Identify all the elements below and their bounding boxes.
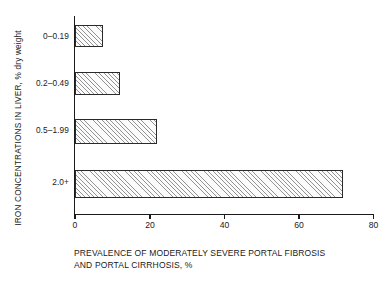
y-axis-tick-label: 0.2–0.49 xyxy=(36,79,69,87)
y-axis-tick-label: 0.5–1.99 xyxy=(36,126,69,134)
x-axis-tick-label: 40 xyxy=(220,221,230,230)
bar-3 xyxy=(75,170,343,198)
y-axis-tick-label: 0–0.19 xyxy=(43,32,69,40)
y-axis-title: IRON CONCENTRATIONS IN LIVER, % dry weig… xyxy=(10,12,26,244)
x-axis-title-line2: AND PORTAL CIRRHOSIS, % xyxy=(74,260,384,272)
x-axis-title-line1: PREVALENCE OF MODERATELY SEVERE PORTAL F… xyxy=(74,248,384,260)
x-axis-tick-label: 0 xyxy=(73,221,78,230)
x-axis-tick xyxy=(224,215,225,219)
y-axis-title-text: IRON CONCENTRATIONS IN LIVER, % dry weig… xyxy=(14,30,22,226)
x-axis-tick-label: 80 xyxy=(369,221,379,230)
bar-1 xyxy=(75,72,120,95)
x-axis-tick xyxy=(149,215,150,219)
y-axis-tick-label: 2.0+ xyxy=(52,178,69,186)
x-axis-tick xyxy=(373,215,374,219)
y-axis-tick-labels: 0–0.19 0.2–0.49 0.5–1.99 2.0+ xyxy=(26,18,73,213)
bar-0 xyxy=(75,25,103,47)
plot-area xyxy=(75,18,373,213)
bar-2 xyxy=(75,119,157,144)
x-axis-title: PREVALENCE OF MODERATELY SEVERE PORTAL F… xyxy=(74,248,384,271)
x-axis-tick xyxy=(74,215,75,219)
x-axis-tick-label: 20 xyxy=(145,221,155,230)
x-axis-tick-label: 60 xyxy=(294,221,304,230)
bar-chart-figure: IRON CONCENTRATIONS IN LIVER, % dry weig… xyxy=(0,0,392,287)
x-axis-tick xyxy=(298,215,299,219)
